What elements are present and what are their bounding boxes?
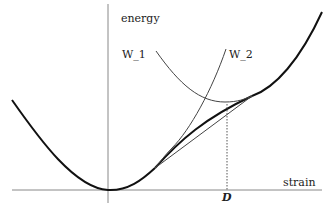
d-label: D — [221, 191, 232, 204]
main-energy-curve — [12, 100, 155, 190]
w2-curve — [155, 49, 226, 168]
energy-axis-label: energy — [121, 12, 160, 25]
w1-label: W_1 — [122, 48, 146, 61]
strain-axis-label: strain — [283, 176, 315, 189]
common-tangent-line — [155, 96, 252, 168]
energy-strain-diagram: energy strain W_1 W_2 D — [0, 0, 331, 205]
diagram-svg: energy strain W_1 W_2 D — [0, 0, 331, 205]
main-energy-curve-right — [252, 12, 322, 96]
w2-label: W_2 — [229, 48, 253, 61]
